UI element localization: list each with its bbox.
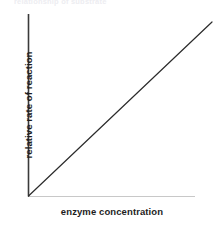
enzyme-rate-chart-figure: relationship of substrate relative rate … (0, 0, 222, 227)
y-axis-label: relative rate of reaction (22, 14, 36, 196)
data-line-relative-rate (29, 22, 213, 196)
x-axis-label: enzyme concentration (28, 206, 196, 218)
